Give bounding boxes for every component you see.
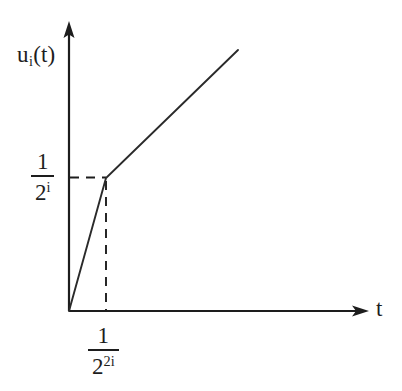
x-tick-denominator-exponent: 2i [104, 353, 115, 369]
y-axis-tick-label: 1 2i [31, 150, 54, 204]
y-tick-fraction-bar [31, 175, 54, 177]
x-tick-denominator-base: 2 [92, 354, 104, 379]
x-tick-fraction-bar [88, 349, 119, 351]
x-tick-numerator: 1 [88, 324, 119, 348]
y-tick-numerator: 1 [31, 150, 54, 174]
y-tick-denominator-base: 2 [35, 180, 47, 205]
x-axis-label: t [376, 297, 382, 320]
plot-area [0, 0, 402, 391]
y-axis-label: ui(t) [17, 43, 55, 69]
y-tick-denominator: 2i [31, 179, 54, 204]
function-curve [69, 50, 238, 311]
x-tick-denominator: 22i [88, 353, 119, 378]
figure-canvas: ui(t) 1 2i 1 22i t [0, 0, 402, 391]
y-axis-label-base: u [17, 42, 29, 67]
x-axis-tick-label: 1 22i [88, 324, 119, 378]
y-tick-denominator-exponent: i [47, 179, 51, 195]
y-axis-label-suffix: (t) [33, 42, 55, 67]
